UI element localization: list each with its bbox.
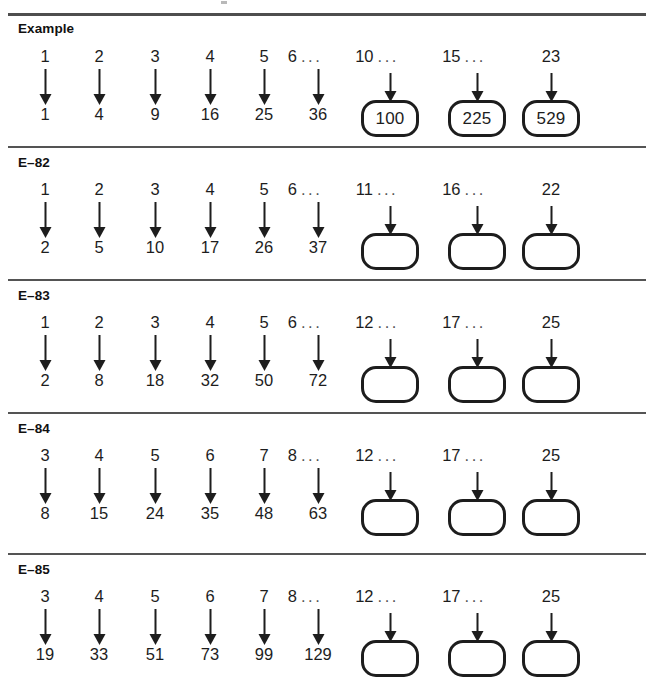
input-number: 25 (542, 446, 560, 465)
arrow-head (312, 493, 324, 504)
arrow-head (39, 634, 51, 645)
input-value: 2 (94, 313, 103, 332)
input-value: 4 (205, 180, 214, 199)
input-value: 10... (355, 47, 399, 66)
arrow-shaft (263, 609, 265, 636)
arrow-shaft (98, 202, 100, 229)
input-number: 5 (259, 313, 268, 332)
answer-box-blank[interactable] (522, 499, 580, 536)
output-number: 48 (255, 504, 273, 523)
input-value: 7 (259, 587, 268, 606)
section-divider (8, 553, 646, 555)
arrow-shaft (154, 468, 156, 495)
input-number: 5 (259, 47, 268, 66)
section-divider (8, 13, 646, 16)
input-number: 12 (355, 313, 373, 332)
ellipsis-marker: ... (465, 313, 486, 332)
arrow-head (93, 94, 105, 105)
input-value: 3 (40, 446, 49, 465)
arrow-shaft (317, 69, 319, 96)
arrow-shaft (317, 202, 319, 229)
input-value: 12... (355, 587, 399, 606)
arrow-shaft (476, 206, 478, 226)
input-number: 5 (150, 446, 159, 465)
input-value: 7 (259, 446, 268, 465)
output-number: 32 (201, 371, 219, 390)
input-number: 4 (205, 180, 214, 199)
input-value: 6... (288, 180, 322, 199)
arrow-shaft (44, 468, 46, 495)
arrow-shaft (154, 609, 156, 636)
input-value: 11... (356, 180, 398, 199)
output-number: 72 (309, 371, 327, 390)
output-number: 8 (40, 504, 49, 523)
arrow-shaft (44, 609, 46, 636)
arrow-shaft (154, 202, 156, 229)
answer-box-blank[interactable] (522, 640, 580, 677)
arrow-shaft (154, 335, 156, 362)
output-number: 5 (94, 238, 103, 257)
input-number: 2 (94, 180, 103, 199)
ellipsis-marker: ... (465, 180, 486, 199)
arrow-head (258, 360, 270, 371)
input-value: 3 (150, 180, 159, 199)
input-number: 25 (542, 587, 560, 606)
arrow-head (312, 634, 324, 645)
ellipsis-marker: ... (465, 587, 486, 606)
output-number: 33 (90, 645, 108, 664)
answer-box-blank[interactable] (448, 499, 506, 536)
answer-box-blank[interactable] (361, 366, 419, 403)
ellipsis-marker: ... (465, 47, 486, 66)
input-value: 1 (40, 180, 49, 199)
input-value: 22 (542, 180, 560, 199)
answer-box-blank[interactable] (448, 366, 506, 403)
output-number: 9 (150, 105, 159, 124)
input-value: 8... (288, 446, 322, 465)
answer-box-blank[interactable] (522, 233, 580, 270)
arrow-shaft (476, 472, 478, 492)
input-value: 5 (259, 47, 268, 66)
answer-box-blank[interactable] (361, 233, 419, 270)
output-number: 2 (40, 371, 49, 390)
output-number: 15 (90, 504, 108, 523)
answer-box-blank[interactable] (361, 499, 419, 536)
input-number: 4 (94, 446, 103, 465)
arrow-shaft (263, 69, 265, 96)
arrow-head (39, 227, 51, 238)
answer-box-blank[interactable] (448, 640, 506, 677)
arrow-shaft (98, 69, 100, 96)
arrow-head (258, 634, 270, 645)
output-number: 17 (201, 238, 219, 257)
input-number: 12 (355, 587, 373, 606)
answer-box-filled[interactable]: 529 (522, 100, 580, 137)
output-number: 36 (309, 105, 327, 124)
input-number: 11 (356, 180, 373, 199)
input-number: 17 (442, 446, 460, 465)
output-number: 16 (201, 105, 219, 124)
answer-box-filled[interactable]: 225 (448, 100, 506, 137)
section-label: E–83 (18, 288, 50, 303)
input-value: 25 (542, 313, 560, 332)
answer-box-blank[interactable] (361, 640, 419, 677)
arrow-head (39, 360, 51, 371)
answer-box-filled[interactable]: 100 (361, 100, 419, 137)
arrow-shaft (389, 472, 391, 492)
output-number: 37 (309, 238, 327, 257)
answer-box-blank[interactable] (522, 366, 580, 403)
input-number: 5 (259, 180, 268, 199)
output-number: 73 (201, 645, 219, 664)
answer-box-blank[interactable] (448, 233, 506, 270)
arrow-shaft (263, 468, 265, 495)
output-number: 18 (146, 371, 164, 390)
input-number: 4 (205, 313, 214, 332)
section-divider (8, 146, 646, 148)
input-number: 3 (40, 587, 49, 606)
output-number: 26 (255, 238, 273, 257)
input-number: 6 (205, 446, 214, 465)
input-value: 6... (288, 47, 322, 66)
input-number: 17 (442, 313, 460, 332)
arrow-shaft (317, 335, 319, 362)
input-number: 3 (150, 180, 159, 199)
input-number: 8 (288, 446, 297, 465)
arrow-shaft (389, 339, 391, 359)
